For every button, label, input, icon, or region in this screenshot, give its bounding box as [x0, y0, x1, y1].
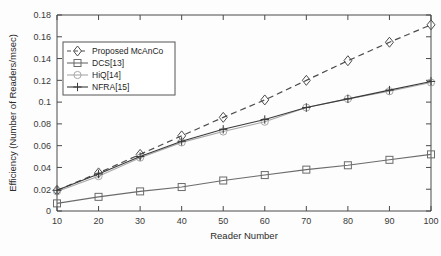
- diamond-marker: [344, 56, 352, 66]
- x-tick-label: 70: [301, 216, 311, 226]
- x-tick-label: 50: [218, 216, 228, 226]
- diamond-marker: [261, 95, 269, 105]
- y-tick-label: 0.04: [33, 163, 51, 173]
- y-axis-title: Efficiency (Number of Readers/msec): [7, 34, 18, 192]
- x-tick-label: 90: [384, 216, 394, 226]
- y-tick-label: 0.06: [33, 141, 51, 151]
- efficiency-line-chart: 00.020.040.060.080.10.120.140.160.181020…: [0, 0, 441, 256]
- x-axis-title: Reader Number: [210, 230, 278, 241]
- x-tick-label: 80: [343, 216, 353, 226]
- series-2: [54, 151, 435, 207]
- y-tick-label: 0.16: [33, 32, 51, 42]
- x-tick-label: 100: [423, 216, 438, 226]
- x-tick-label: 20: [94, 216, 104, 226]
- plus-marker: [344, 95, 352, 103]
- series-line: [57, 83, 431, 192]
- x-tick-label: 60: [260, 216, 270, 226]
- y-tick-label: 0: [46, 206, 51, 216]
- y-tick-label: 0.02: [33, 185, 51, 195]
- series-line: [57, 81, 431, 190]
- legend-label: HiQ[14]: [92, 70, 121, 80]
- legend-label: NFRA[15]: [92, 82, 129, 92]
- x-tick-label: 10: [52, 216, 62, 226]
- y-tick-label: 0.08: [33, 119, 51, 129]
- chart-figure: 00.020.040.060.080.10.120.140.160.181020…: [0, 0, 441, 256]
- y-tick-label: 0.14: [33, 54, 51, 64]
- chart-legend: Proposed McAnCoDCS[13]HiQ[14]NFRA[15]: [63, 42, 175, 95]
- series-line: [57, 154, 431, 203]
- plus-marker: [302, 103, 310, 111]
- legend-item-2[interactable]: DCS[13]: [67, 58, 124, 68]
- legend-label: Proposed McAnCo: [92, 46, 164, 56]
- y-tick-label: 0.1: [38, 97, 51, 107]
- legend-label: DCS[13]: [92, 58, 124, 68]
- y-tick-label: 0.18: [33, 10, 51, 20]
- x-tick-label: 30: [135, 216, 145, 226]
- y-tick-label: 0.12: [33, 76, 51, 86]
- x-tick-label: 40: [177, 216, 187, 226]
